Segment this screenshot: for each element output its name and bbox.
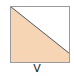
shape-label: V	[0, 62, 74, 76]
